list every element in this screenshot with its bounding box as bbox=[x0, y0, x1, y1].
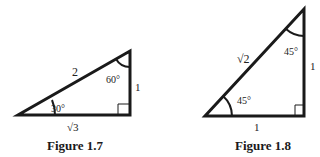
side-label-vertical: 1 bbox=[135, 81, 141, 93]
side-label-vertical: 1 bbox=[310, 60, 316, 72]
angle-arc-45-bottom bbox=[223, 96, 232, 116]
right-angle-marker bbox=[118, 104, 130, 115]
side-label-hypotenuse: 2 bbox=[72, 65, 78, 79]
angle-label-45-top: 45° bbox=[284, 46, 298, 57]
side-label-base: √3 bbox=[67, 121, 79, 133]
figure-caption: Figure 1.7 bbox=[47, 138, 104, 153]
angle-label-60: 60° bbox=[106, 74, 120, 85]
angle-label-30: 30° bbox=[51, 103, 65, 114]
figure-1-8: √2 45° 1 45° 1 Figure 1.8 bbox=[205, 9, 316, 153]
figure-caption: Figure 1.8 bbox=[235, 138, 292, 153]
angle-arc-60 bbox=[116, 59, 130, 67]
figure-1-7: 2 60° 1 30° √3 Figure 1.7 bbox=[18, 51, 141, 153]
triangle-45-45-90 bbox=[205, 9, 304, 116]
figures-canvas: 2 60° 1 30° √3 Figure 1.7 √2 45° 1 45° 1… bbox=[0, 0, 320, 157]
side-label-hypotenuse: √2 bbox=[237, 52, 250, 66]
side-label-base: 1 bbox=[254, 121, 260, 133]
angle-arc-45-top bbox=[286, 29, 304, 36]
angle-label-45-bottom: 45° bbox=[237, 95, 251, 106]
